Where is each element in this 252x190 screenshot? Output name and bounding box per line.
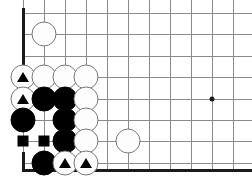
square-mark-sq-c1-r6: [39, 136, 50, 147]
black-stone-b-c0-r5: [11, 108, 36, 133]
triangle-icon: [17, 94, 29, 104]
grid-line-vertical-4: [107, 0, 108, 169]
square-mark-sq-c0-r6: [18, 136, 29, 147]
triangle-icon: [59, 158, 71, 168]
triangle-icon: [80, 158, 92, 168]
grid-line-vertical-9: [212, 0, 213, 169]
grid-line-vertical-10: [233, 0, 234, 169]
white-stone-w-c3-r7: [74, 151, 99, 176]
white-stone-w-c1-r1: [32, 22, 57, 47]
grid-line-vertical-8: [191, 0, 192, 169]
grid-line-horizontal-0: [23, 13, 252, 14]
triangle-icon: [17, 72, 29, 82]
white-stone-w-c5-r6: [116, 129, 141, 154]
grid-line-horizontal-1: [23, 34, 252, 35]
board-left-border-lower: [22, 152, 25, 169]
star-point-hoshi-4-4: [210, 97, 215, 102]
grid-line-vertical-7: [170, 0, 171, 169]
grid-line-vertical-6: [149, 0, 150, 169]
triangle-marker: [75, 152, 98, 175]
grid-line-horizontal-2: [23, 56, 252, 57]
go-board-diagram: [0, 0, 252, 190]
